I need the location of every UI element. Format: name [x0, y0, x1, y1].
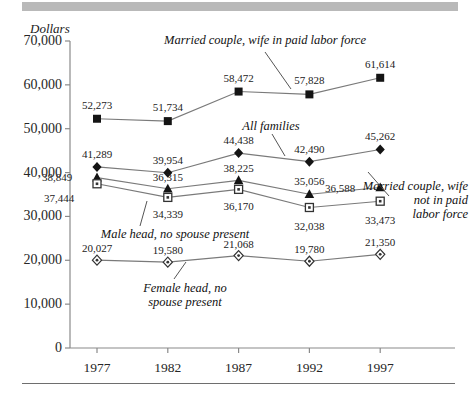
data-value-label: 52,273: [67, 100, 127, 111]
y-tick-label: 60,000: [0, 78, 62, 92]
x-tick-label: 1992: [279, 361, 339, 375]
x-tick-label: 1997: [350, 361, 410, 375]
data-value-label: 57,828: [279, 75, 339, 86]
data-value-label: 38,225: [209, 163, 269, 174]
data-value-label: 34,339: [138, 209, 198, 220]
annotation-married-wife-not-paid-line3: labor force: [320, 208, 468, 221]
annotation-male-head: Male head, no spouse present: [85, 228, 265, 241]
data-value-label: 37,444: [29, 193, 89, 204]
data-value-label: 32,038: [279, 221, 339, 232]
y-tick-label: 10,000: [0, 297, 62, 311]
annotation-married-wife-not-paid-line1: Married couple, wife: [320, 180, 468, 193]
chart-figure: Dollars 010,00020,00030,00040,00050,0006…: [0, 0, 473, 401]
y-tick-label: 30,000: [0, 209, 62, 223]
data-value-label: 45,262: [350, 131, 410, 142]
data-value-label: 42,490: [279, 144, 339, 155]
data-value-label: 19,580: [138, 245, 198, 256]
annotation-married-wife-not-paid-line2: not in paid: [320, 194, 468, 207]
annotation-female-head-line2: spouse present: [110, 296, 260, 309]
annotation-married-wife-paid: Married couple, wife in paid labor force: [150, 34, 380, 47]
data-value-label: 19,780: [279, 244, 339, 255]
data-value-label: 20,027: [67, 243, 127, 254]
data-value-label: 36,315: [138, 172, 198, 183]
data-value-label: 38,849: [27, 172, 87, 183]
data-value-label: 61,614: [350, 59, 410, 70]
y-tick-label: 70,000: [0, 34, 62, 48]
data-value-label: 39,954: [138, 155, 198, 166]
annotation-all-families: All families: [216, 120, 326, 133]
annotation-female-head-line1: Female head, no: [110, 282, 260, 295]
y-tick-label: 0: [0, 341, 62, 355]
x-tick-label: 1987: [209, 361, 269, 375]
data-value-label: 44,438: [209, 135, 269, 146]
x-tick-label: 1977: [67, 361, 127, 375]
data-value-label: 41,289: [67, 149, 127, 160]
data-value-label: 58,472: [209, 73, 269, 84]
data-value-label: 36,170: [209, 201, 269, 212]
x-tick-label: 1982: [138, 361, 198, 375]
data-value-label: 21,350: [350, 237, 410, 248]
y-tick-label: 50,000: [0, 122, 62, 136]
data-value-label: 51,734: [138, 102, 198, 113]
y-tick-label: 20,000: [0, 253, 62, 267]
